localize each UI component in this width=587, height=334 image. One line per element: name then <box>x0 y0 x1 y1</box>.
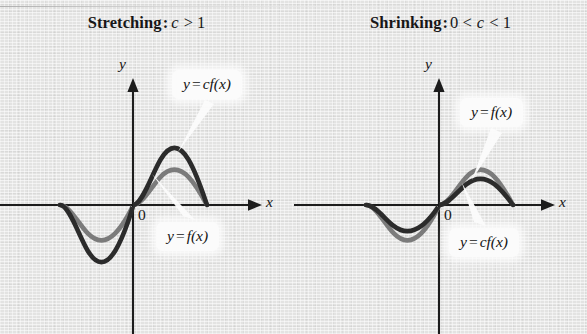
callout-eq: = <box>190 75 203 92</box>
panel-stretching: Stretching:c > 1 y x 0 y=cf(x) <box>0 0 293 334</box>
x-axis-label: x <box>266 193 273 211</box>
origin-label: 0 <box>444 206 452 224</box>
callout-rhs: f(x) <box>187 227 209 244</box>
plot-stretching <box>0 0 293 334</box>
plot-shrinking <box>294 0 587 334</box>
x-axis-label: x <box>559 193 566 211</box>
callout-eq: = <box>467 233 480 250</box>
callout-cf-shrinking: y=cf(x) <box>449 228 519 257</box>
y-axis-label: y <box>425 55 432 73</box>
callout-f-shrinking: y=f(x) <box>460 98 523 127</box>
callout-lhs: y <box>167 227 174 244</box>
panel-shrinking: Shrinking:0 < c < 1 y x 0 y=f(x) y=c <box>294 0 587 334</box>
y-axis-label: y <box>119 55 126 73</box>
origin-label: 0 <box>138 206 146 224</box>
callout-lhs: y <box>183 75 190 92</box>
x-axis <box>294 199 555 210</box>
vertical-scaling-figure: Stretching:c > 1 y x 0 y=cf(x) <box>0 0 587 334</box>
callout-rhs: f(x) <box>491 103 513 120</box>
callout-lhs: y <box>471 103 478 120</box>
callout-eq: = <box>174 227 187 244</box>
callout-rhs: cf(x) <box>203 75 231 92</box>
callout-f-stretching: y=f(x) <box>156 222 219 251</box>
callout-lhs: y <box>460 233 467 250</box>
callout-tail-cf <box>178 100 214 152</box>
callout-eq: = <box>478 103 491 120</box>
callout-rhs: cf(x) <box>480 233 508 250</box>
callout-cf-stretching: y=cf(x) <box>172 70 242 99</box>
